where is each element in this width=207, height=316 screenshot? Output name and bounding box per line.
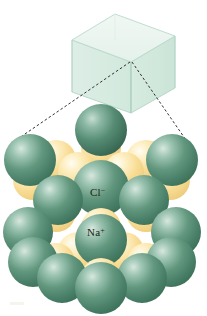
ion-sphere-chloride [75, 104, 127, 156]
scan-artifact [10, 302, 24, 305]
chloride-label-text: Cl [90, 186, 101, 198]
ion-sphere-chloride [75, 262, 127, 314]
sodium-label-text: Na [87, 226, 100, 238]
sodium-label-charge: + [100, 226, 105, 235]
nacl-lattice-figure: Cl− Na+ [0, 0, 207, 316]
chloride-label-charge: − [101, 186, 106, 195]
space-filling-lattice [3, 104, 201, 314]
